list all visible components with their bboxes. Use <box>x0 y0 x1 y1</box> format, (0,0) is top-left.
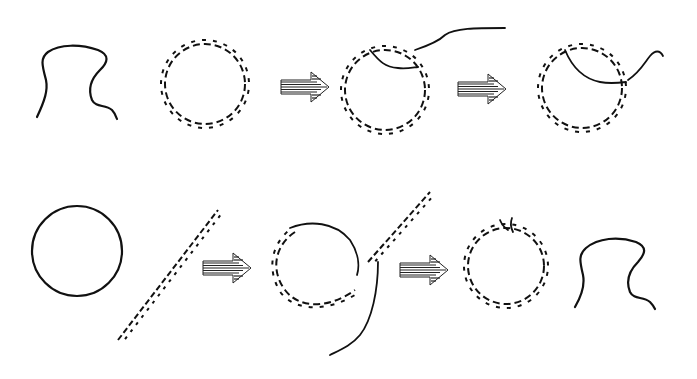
linear-helix <box>118 210 222 343</box>
single-strand-bottom-right <box>575 239 655 309</box>
single-strand-top-left <box>37 46 117 119</box>
circular-helix-top-1 <box>161 40 249 128</box>
process-arrow-1 <box>281 72 329 102</box>
process-arrow-2 <box>458 74 506 104</box>
circular-helix-loop <box>538 44 663 132</box>
process-arrow-4 <box>400 255 448 285</box>
circular-helix-nicked <box>464 218 548 308</box>
diagram-canvas <box>0 0 697 379</box>
circular-helix-strand-invasion <box>341 28 505 134</box>
process-arrow-3 <box>203 253 251 283</box>
single-strand-circle <box>32 206 122 296</box>
